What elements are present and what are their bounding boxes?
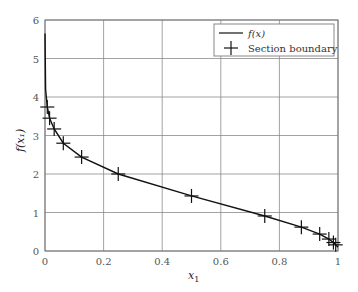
x-tick-label: 0.2 (96, 256, 112, 267)
plus-marker-icon (40, 100, 54, 114)
plus-marker-icon (185, 189, 199, 203)
y-tick-label: 4 (33, 92, 39, 103)
x-tick-label: 0 (42, 256, 48, 267)
f-curve (45, 34, 338, 248)
y-axis-label: f(x₁) (14, 129, 27, 153)
legend-line-label: f(x) (247, 28, 265, 39)
plus-marker-icon (258, 209, 272, 223)
legend-marker-label: Section boundary (248, 43, 338, 54)
y-tick-label: 6 (33, 15, 39, 26)
legend: f(x) Section boundary (214, 24, 338, 56)
plus-marker-icon (111, 167, 125, 181)
x-tick-label: 0.6 (213, 256, 229, 267)
y-tick-label: 5 (33, 54, 39, 65)
x-tick-label: 0.4 (154, 256, 170, 267)
x-axis-label: x1 (188, 269, 199, 284)
chart: 00.20.40.60.810123456 f(x) Section bound… (0, 0, 358, 292)
y-tick-label: 3 (33, 131, 39, 142)
y-tick-label: 2 (33, 169, 39, 180)
plus-marker-icon (294, 220, 308, 234)
x-tick-label: 0.8 (271, 256, 287, 267)
y-tick-label: 1 (33, 208, 39, 219)
plus-marker-icon (75, 150, 89, 164)
x-tick-label: 1 (335, 256, 341, 267)
y-tick-label: 0 (33, 246, 39, 257)
section-boundary-markers (40, 100, 342, 252)
plus-marker-icon (56, 136, 70, 150)
